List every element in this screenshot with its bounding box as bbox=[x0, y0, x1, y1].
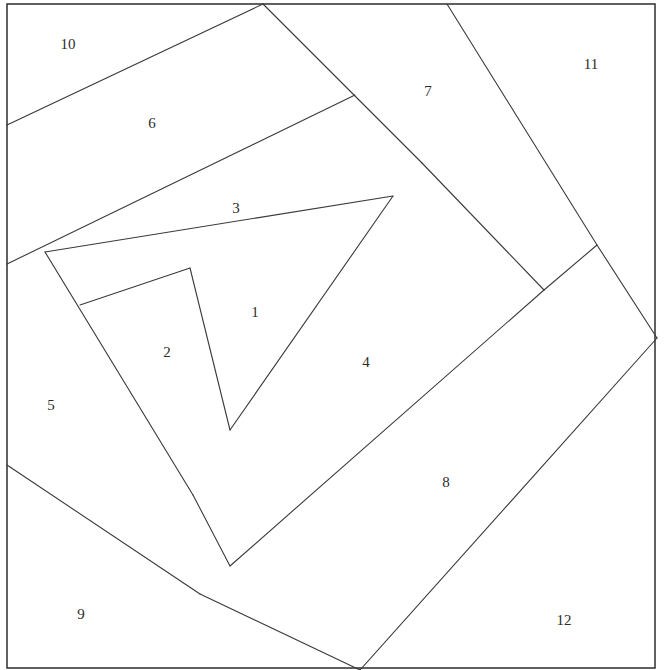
region-label-1: 1 bbox=[251, 304, 259, 320]
region-label-11: 11 bbox=[584, 56, 598, 72]
region-label-2: 2 bbox=[163, 344, 171, 360]
region-label-5: 5 bbox=[47, 397, 55, 413]
region-label-10: 10 bbox=[61, 36, 76, 52]
region-label-12: 12 bbox=[557, 612, 572, 628]
partition-diagram: 123456789101112 bbox=[0, 0, 665, 670]
diagram-background bbox=[0, 0, 665, 670]
partition-svg: 123456789101112 bbox=[0, 0, 665, 670]
region-label-3: 3 bbox=[232, 200, 240, 216]
region-label-4: 4 bbox=[362, 354, 370, 370]
region-label-7: 7 bbox=[424, 83, 432, 99]
region-label-9: 9 bbox=[77, 606, 85, 622]
region-label-8: 8 bbox=[442, 474, 450, 490]
region-label-6: 6 bbox=[148, 115, 156, 131]
